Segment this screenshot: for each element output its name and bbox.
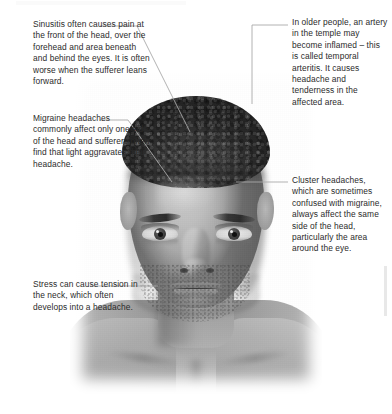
right-edge-accent-bar [384, 266, 387, 316]
right-ear [257, 192, 274, 230]
sternal-notch [188, 360, 204, 400]
annotation-stress-text: Stress can cause tension in the neck, wh… [33, 279, 143, 313]
diagram-canvas: Sinusitis often causes pain at the front… [0, 0, 392, 414]
right-eye [216, 226, 252, 241]
right-eye-lid [215, 223, 253, 231]
left-eye [142, 226, 178, 241]
annotation-cluster-headache-text: Cluster headaches, which are sometimes c… [292, 175, 388, 255]
left-eye-lid [141, 223, 179, 231]
annotation-migraine-text: Migraine headaches commonly affect only … [33, 113, 151, 170]
annotation-temporal-arteritis: In older people, an artery in the temple… [292, 17, 388, 108]
annotation-sinusitis-text: Sinusitis often causes pain at the front… [33, 19, 151, 87]
annotation-cluster-headache: Cluster headaches, which are sometimes c… [292, 175, 388, 255]
annotation-migraine: Migraine headaches commonly affect only … [33, 113, 151, 170]
forehead-highlight [156, 178, 218, 212]
top-accent-band [16, 1, 186, 5]
annotation-temporal-arteritis-text: In older people, an artery in the temple… [292, 17, 388, 108]
annotation-stress: Stress can cause tension in the neck, wh… [33, 279, 143, 313]
annotation-sinusitis: Sinusitis often causes pain at the front… [33, 19, 151, 87]
